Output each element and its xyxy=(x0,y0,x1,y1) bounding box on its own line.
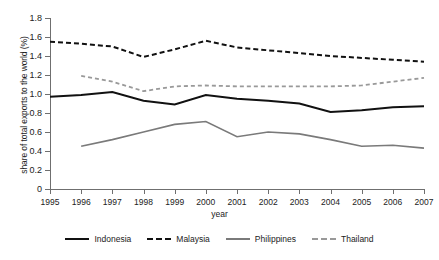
x-axis-title: year xyxy=(0,209,439,219)
series-line-thailand xyxy=(81,76,424,91)
x-tick-label: 1996 xyxy=(72,198,91,207)
x-tick-label: 1995 xyxy=(41,198,60,207)
legend-label: Thailand xyxy=(341,234,374,244)
legend-swatch-indonesia xyxy=(65,238,89,240)
x-tick-label: 1999 xyxy=(165,198,184,207)
series-line-malaysia xyxy=(50,41,424,62)
legend-swatch-malaysia xyxy=(147,238,171,240)
legend-item-malaysia[interactable]: Malaysia xyxy=(147,234,210,244)
y-tick-label: 0.8 xyxy=(29,109,42,118)
legend-swatch-philippines xyxy=(226,238,250,240)
x-tick-label: 1998 xyxy=(134,198,153,207)
x-tick-label: 2003 xyxy=(290,198,309,207)
x-tick-label: 2005 xyxy=(352,198,371,207)
series-lines xyxy=(50,18,425,190)
plot-area: 00.20.40.60.81.01.21.41.61.8 19951996199… xyxy=(50,18,425,190)
y-tick-label: 0.2 xyxy=(29,166,42,175)
x-tick-label: 2000 xyxy=(196,198,215,207)
legend-label: Indonesia xyxy=(94,234,131,244)
y-tick-label: 1.6 xyxy=(29,33,42,42)
y-tick-label: 1.0 xyxy=(29,90,42,99)
y-tick-label: 0 xyxy=(37,185,42,194)
y-tick-label: 1.8 xyxy=(29,14,42,23)
y-tick-label: 0.6 xyxy=(29,128,42,137)
series-line-philippines xyxy=(81,122,424,149)
x-tick-label: 2007 xyxy=(415,198,434,207)
x-tick-label: 2006 xyxy=(383,198,402,207)
x-tick-label: 2002 xyxy=(259,198,278,207)
line-chart: share of total exports to the world (%) … xyxy=(0,0,439,260)
y-tick-label: 1.4 xyxy=(29,52,42,61)
x-tick-label: 2004 xyxy=(321,198,340,207)
legend-item-thailand[interactable]: Thailand xyxy=(312,234,374,244)
legend-label: Malaysia xyxy=(176,234,210,244)
legend-swatch-thailand xyxy=(312,238,336,240)
x-tick-label: 1997 xyxy=(103,198,122,207)
chart-legend: IndonesiaMalaysiaPhilippinesThailand xyxy=(0,234,439,244)
legend-label: Philippines xyxy=(255,234,296,244)
x-tick-label: 2001 xyxy=(228,198,247,207)
series-line-indonesia xyxy=(50,92,424,112)
y-tick-label: 1.2 xyxy=(29,71,42,80)
legend-item-philippines[interactable]: Philippines xyxy=(226,234,296,244)
y-tick-label: 0.4 xyxy=(29,147,42,156)
y-axis-title: share of total exports to the world (%) xyxy=(19,15,29,195)
legend-item-indonesia[interactable]: Indonesia xyxy=(65,234,131,244)
